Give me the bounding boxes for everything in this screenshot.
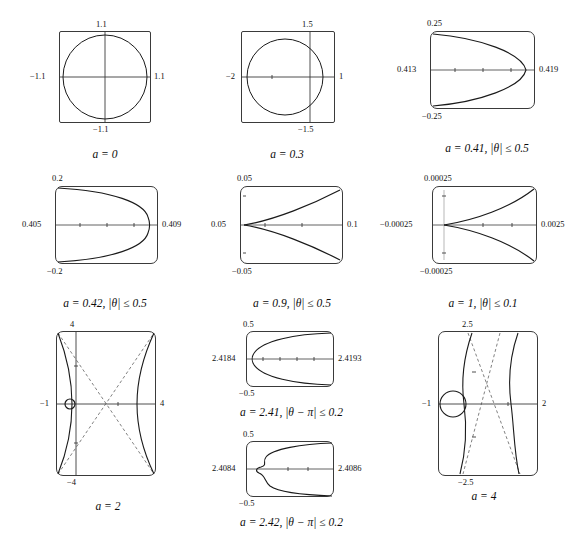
plot-curve-cusp-right-curved [390,172,575,287]
panel-caption: a = 0.41, |θ| ≤ 0.5 [392,143,579,155]
axis-label-bottom: −1.5 [298,125,313,134]
plot-curve-wavy-vertical-pair [400,321,575,499]
cut-off-text-sliver [0,0,579,9]
plot-panel-a0: 1.1 −1.1 −1.1 1.1 a = 0 [40,21,180,161]
axis-label-left: 0.05 [211,220,226,229]
axis-label-bottom: −0.00025 [420,267,452,276]
axis-label-left: 2.4184 [212,354,235,363]
axis-label-right: 4 [160,399,164,408]
axis-label-bottom: −2.5 [458,478,473,487]
axis-label-bottom: −0.05 [232,267,252,276]
axis-label-top: 2.5 [462,320,473,329]
axis-label-top: 0.00025 [424,174,452,183]
axis-label-left: 0.413 [397,65,416,74]
axis-label-top: 0.5 [243,320,254,329]
panel-caption: a = 2.41, |θ − π| ≤ 0.2 [194,407,389,419]
axis-label-left: −2 [226,72,235,81]
axis-label-right: 0.419 [539,65,558,74]
plot-curve-parabola-left-steep [18,172,193,287]
axis-label-top: 0.05 [237,174,252,183]
axis-label-left: −1.1 [30,72,45,81]
plot-curve-circle-offcenter [222,21,352,136]
axis-label-bottom: −1.1 [93,125,108,134]
axis-label-right: 2.4086 [338,464,361,473]
axis-label-top: 0.25 [427,19,442,28]
plot-panel-a2: 4 −4 −1 4 a = 2 [24,321,199,521]
axis-label-right: 1.1 [154,72,165,81]
panel-caption: a = 4 [414,491,554,503]
axis-label-right: 2.4193 [338,354,361,363]
axis-label-top: 1.5 [302,20,313,29]
plot-curve-circle [40,21,170,136]
axis-label-left: −1 [422,399,431,408]
panel-caption: a = 2 [38,501,178,513]
plot-panel-a03: 1.5 −1.5 −2 1 a = 0.3 [222,21,362,161]
panel-caption: a = 0.9, |θ| ≤ 0.5 [197,298,387,310]
axis-label-top: 1.1 [96,20,107,29]
axis-label-top: 0.2 [52,174,63,183]
panel-caption: a = 2.42, |θ − π| ≤ 0.2 [194,517,389,529]
plot-grid: 1.1 −1.1 −1.1 1.1 a = 0 1.5 −1.5 −2 1 [0,9,579,534]
plot-panel-a241: 0.5 −0.5 2.4184 2.4193 a = 2.41, |θ − π|… [198,321,388,426]
plot-panel-a041: 0.25 −0.25 0.413 0.419 a = 0.41, |θ| ≤ 0… [400,17,575,157]
axis-label-left: −0.00025 [380,220,412,229]
axis-label-right: 0.409 [162,220,181,229]
axis-label-right: 2 [542,399,546,408]
plot-curve-hyperbola-pair [24,321,199,499]
panel-caption: a = 0.3 [222,149,352,161]
plot-panel-a1: 0.00025 −0.00025 −0.00025 0.0025 a = 1, … [390,172,575,312]
axis-label-bottom: −0.5 [239,499,254,508]
panel-caption: a = 1, |θ| ≤ 0.1 [388,298,578,310]
axis-label-right: 0.0025 [541,220,564,229]
figure-page: 1.1 −1.1 −1.1 1.1 a = 0 1.5 −1.5 −2 1 [0,0,579,534]
panel-caption: a = 0 [40,149,170,161]
plot-panel-a4: 2.5 −2.5 −1 2 a = 4 [400,321,575,521]
axis-label-top: 0.5 [243,430,254,439]
axis-label-bottom: −0.25 [422,112,442,121]
plot-panel-a042: 0.2 −0.2 0.405 0.409 a = 0.42, |θ| ≤ 0.5 [18,172,193,312]
axis-label-top: 4 [70,320,74,329]
axis-label-left: −1 [40,399,49,408]
axis-label-bottom: −0.5 [239,389,254,398]
axis-label-bottom: −0.2 [47,267,62,276]
axis-label-right: 1 [339,72,343,81]
plot-panel-a242: 0.5 −0.5 2.4084 2.4086 a = 2.42, |θ − π|… [198,431,388,534]
axis-label-bottom: −4 [67,478,76,487]
axis-label-left: 2.4084 [212,464,235,473]
plot-panel-a09: 0.05 −0.05 0.05 0.1 a = 0.9, |θ| ≤ 0.5 [205,172,380,312]
axis-label-right: 0.1 [347,220,358,229]
panel-caption: a = 0.42, |θ| ≤ 0.5 [10,298,200,310]
axis-label-left: 0.405 [22,220,41,229]
